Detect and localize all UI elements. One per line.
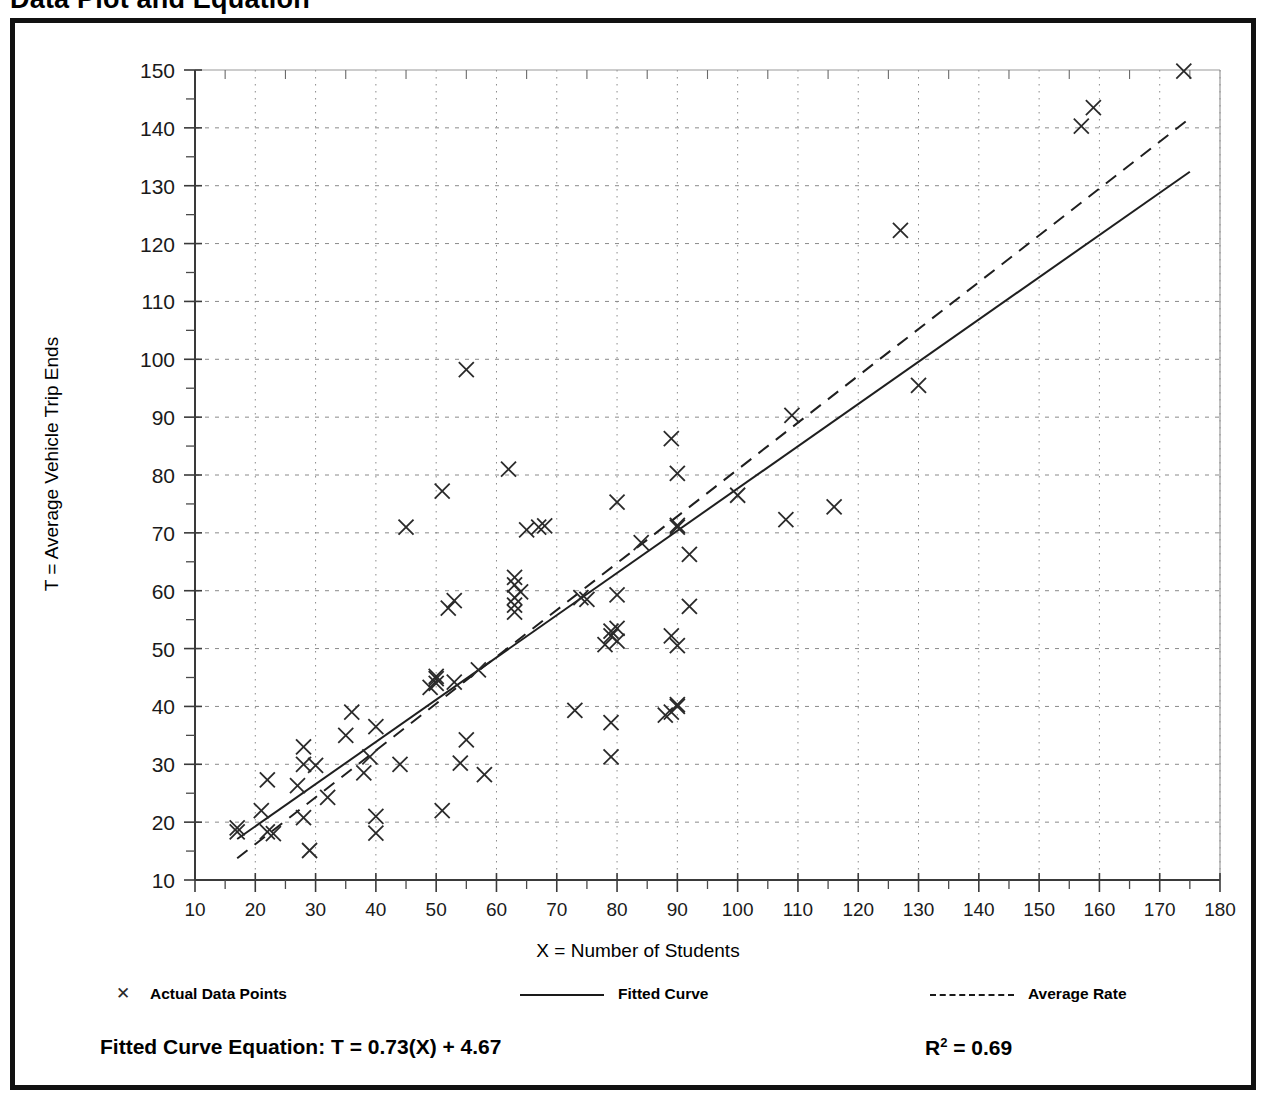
data-point-marker xyxy=(447,593,462,608)
data-point-marker xyxy=(441,601,456,616)
data-point-marker xyxy=(670,466,685,481)
equation-row: Fitted Curve Equation: T = 0.73(X) + 4.6… xyxy=(15,1035,1261,1075)
data-point-marker xyxy=(670,697,685,712)
data-point-marker xyxy=(344,705,359,720)
solid-line-icon xyxy=(520,986,604,1002)
data-point-marker xyxy=(911,378,926,393)
x-tick-label: 10 xyxy=(184,899,205,920)
x-axis-title: X = Number of Students xyxy=(15,940,1261,962)
plot-area: 1020304050607080901001101201301401501020… xyxy=(15,23,1261,1095)
data-point-marker xyxy=(610,587,625,602)
data-point-marker xyxy=(320,790,335,805)
r-squared-prefix: R xyxy=(925,1036,940,1059)
figure-frame: 1020304050607080901001101201301401501020… xyxy=(10,18,1256,1090)
x-tick-label: 140 xyxy=(963,899,995,920)
x-tick-label: 40 xyxy=(365,899,386,920)
data-point-marker xyxy=(664,431,679,446)
x-tick-label: 90 xyxy=(667,899,688,920)
data-point-marker xyxy=(519,522,534,537)
y-axis-title: T = Average Vehicle Trip Ends xyxy=(41,264,63,664)
data-point-marker xyxy=(507,598,522,613)
trend-lines-layer xyxy=(237,118,1190,858)
legend-label-actual-data-points: Actual Data Points xyxy=(150,985,287,1003)
y-tick-label: 30 xyxy=(152,753,175,776)
data-point-marker xyxy=(682,599,697,614)
data-point-marker xyxy=(296,739,311,754)
legend-item-average-rate: Average Rate xyxy=(930,985,1127,1003)
data-point-marker xyxy=(610,495,625,510)
data-point-marker xyxy=(893,223,908,238)
x-tick-label: 110 xyxy=(783,899,813,920)
x-tick-label: 60 xyxy=(486,899,507,920)
data-point-marker xyxy=(604,715,619,730)
data-point-marker xyxy=(598,637,613,652)
data-points-layer xyxy=(230,64,1192,858)
data-point-marker xyxy=(471,662,486,677)
x-tick-label: 160 xyxy=(1084,899,1116,920)
data-point-marker xyxy=(260,772,275,787)
y-tick-label: 40 xyxy=(152,695,175,718)
data-point-marker xyxy=(1176,64,1191,79)
data-point-marker xyxy=(1074,119,1089,134)
data-point-marker xyxy=(682,547,697,562)
x-marker-icon: ✕ xyxy=(110,986,136,1002)
data-point-marker xyxy=(459,732,474,747)
data-point-marker xyxy=(567,703,582,718)
data-point-marker xyxy=(1086,100,1101,115)
data-point-marker xyxy=(338,728,353,743)
data-point-marker xyxy=(827,499,842,514)
data-point-marker xyxy=(604,749,619,764)
data-point-marker xyxy=(507,605,522,620)
data-point-marker xyxy=(501,462,516,477)
x-tick-label: 30 xyxy=(305,899,326,920)
y-tick-label: 90 xyxy=(152,406,175,429)
x-tick-label: 50 xyxy=(426,899,447,920)
data-point-marker xyxy=(356,765,371,780)
data-point-marker xyxy=(399,520,414,535)
y-tick-label: 140 xyxy=(140,117,175,140)
average-rate-line xyxy=(237,118,1190,858)
data-point-marker xyxy=(453,756,468,771)
data-point-marker xyxy=(435,484,450,499)
y-tick-label: 130 xyxy=(140,175,175,198)
y-tick-label: 10 xyxy=(152,869,175,892)
x-tick-label: 170 xyxy=(1144,899,1176,920)
data-point-marker xyxy=(658,708,673,723)
fitted-curve-line xyxy=(237,172,1190,839)
y-tick-label: 100 xyxy=(140,348,175,371)
data-point-marker xyxy=(477,767,492,782)
data-point-marker xyxy=(368,809,383,824)
data-point-marker xyxy=(778,512,793,527)
x-tick-label: 130 xyxy=(903,899,935,920)
data-point-marker xyxy=(507,570,522,585)
y-tick-label: 50 xyxy=(152,638,175,661)
r-squared-value: R2 = 0.69 xyxy=(925,1035,1012,1060)
data-point-marker xyxy=(459,362,474,377)
data-point-marker xyxy=(610,634,625,649)
x-tick-label: 150 xyxy=(1023,899,1055,920)
data-point-marker xyxy=(513,584,528,599)
x-tick-label: 70 xyxy=(546,899,567,920)
y-tick-label: 70 xyxy=(152,522,175,545)
x-tick-label: 120 xyxy=(842,899,874,920)
data-point-marker xyxy=(435,803,450,818)
y-tick-label: 20 xyxy=(152,811,175,834)
y-tick-label: 150 xyxy=(140,59,175,82)
data-point-marker xyxy=(302,843,317,858)
y-tick-label: 110 xyxy=(142,290,175,313)
chart-legend: ✕ Actual Data Points Fitted Curve Averag… xyxy=(15,985,1261,1019)
dashed-line-icon xyxy=(930,986,1014,1002)
r-squared-number: = 0.69 xyxy=(947,1036,1012,1059)
data-point-marker xyxy=(368,826,383,841)
data-point-marker xyxy=(290,778,305,793)
axes-layer xyxy=(184,70,1220,892)
x-tick-label: 100 xyxy=(722,899,754,920)
data-point-marker xyxy=(664,628,679,643)
page-title: Data Plot and Equation xyxy=(10,0,310,15)
data-point-marker xyxy=(670,638,685,653)
legend-label-average-rate: Average Rate xyxy=(1028,985,1127,1003)
data-point-marker xyxy=(362,749,377,764)
legend-label-fitted-curve: Fitted Curve xyxy=(618,985,708,1003)
data-point-marker xyxy=(634,535,649,550)
data-point-marker xyxy=(254,803,269,818)
